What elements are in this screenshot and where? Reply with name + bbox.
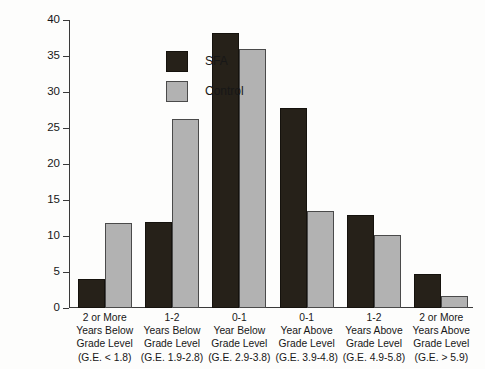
x-axis-label-4: 1-2Years AboveGrade Level(G.E. 4.9-5.8) bbox=[335, 311, 413, 364]
x-axis-label-line: (G.E. 4.9-5.8) bbox=[335, 351, 413, 364]
y-tick-label: 5 bbox=[54, 264, 60, 279]
x-axis-label-line: Years Below bbox=[133, 324, 211, 337]
y-tick-label: 0 bbox=[54, 300, 60, 315]
x-axis-label-line: Grade Level bbox=[268, 337, 346, 350]
x-axis-label-line: Year Below bbox=[200, 324, 278, 337]
x-axis-label-line: Years Above bbox=[335, 324, 413, 337]
x-axis-label-line: 0-1 bbox=[200, 311, 278, 324]
bar-chart-figure: Percent of Students 0510152025303540 SFA… bbox=[0, 0, 485, 369]
x-axis-label-line: Year Above bbox=[268, 324, 346, 337]
legend-label-sfa: SFA bbox=[205, 54, 228, 68]
legend-swatch-control bbox=[166, 81, 188, 102]
x-axis-label-3: 0-1Year AboveGrade Level(G.E. 3.9-4.8) bbox=[268, 311, 346, 364]
bar-control-3 bbox=[307, 211, 334, 308]
y-tick-label: 25 bbox=[47, 120, 60, 135]
x-axis-label-1: 1-2Years BelowGrade Level(G.E. 1.9-2.8) bbox=[133, 311, 211, 364]
bar-group bbox=[280, 20, 334, 308]
x-axis-label-line: 1-2 bbox=[133, 311, 211, 324]
x-axis-label-line: Grade Level bbox=[200, 337, 278, 350]
x-axis-label-5: 2 or MoreYears AboveGrade Level(G.E. > 5… bbox=[402, 311, 480, 364]
x-axis-label-line: Grade Level bbox=[66, 337, 144, 350]
x-axis-label-line: 2 or More bbox=[66, 311, 144, 324]
x-axis-label-line: (G.E. < 1.8) bbox=[66, 351, 144, 364]
plot-area: 0510152025303540 SFA Control bbox=[69, 20, 473, 308]
bar-sfa-3 bbox=[280, 108, 307, 308]
x-axis-label-line: (G.E. 2.9-3.8) bbox=[200, 351, 278, 364]
bar-control-5 bbox=[441, 296, 468, 308]
x-axis-label-line: Years Above bbox=[402, 324, 480, 337]
bar-sfa-1 bbox=[145, 222, 172, 308]
y-tick-mark bbox=[63, 308, 69, 309]
bar-group bbox=[347, 20, 401, 308]
bar-group bbox=[78, 20, 132, 308]
y-tick-label: 30 bbox=[47, 84, 60, 99]
y-tick-label: 15 bbox=[47, 192, 60, 207]
x-axis-label-line: (G.E. 1.9-2.8) bbox=[133, 351, 211, 364]
x-axis-label-line: 2 or More bbox=[402, 311, 480, 324]
x-axis-label-line: (G.E. 3.9-4.8) bbox=[268, 351, 346, 364]
legend-swatch-sfa bbox=[166, 51, 188, 72]
x-axis-label-line: Grade Level bbox=[402, 337, 480, 350]
bar-sfa-0 bbox=[78, 279, 105, 308]
bar-control-0 bbox=[105, 223, 132, 308]
x-axis-label-line: 1-2 bbox=[335, 311, 413, 324]
x-axis-category-labels: 2 or MoreYears BelowGrade Level(G.E. < 1… bbox=[69, 311, 473, 367]
x-axis-label-line: Grade Level bbox=[335, 337, 413, 350]
legend-item-sfa: SFA bbox=[166, 46, 286, 76]
y-tick-label: 20 bbox=[47, 156, 60, 171]
chart-legend: SFA Control bbox=[166, 46, 286, 106]
legend-item-control: Control bbox=[166, 76, 286, 106]
x-axis-label-0: 2 or MoreYears BelowGrade Level(G.E. < 1… bbox=[66, 311, 144, 364]
bar-sfa-5 bbox=[414, 274, 441, 308]
x-axis-label-2: 0-1Year BelowGrade Level(G.E. 2.9-3.8) bbox=[200, 311, 278, 364]
x-axis-label-line: 0-1 bbox=[268, 311, 346, 324]
y-tick-label: 10 bbox=[47, 228, 60, 243]
x-axis-label-line: (G.E. > 5.9) bbox=[402, 351, 480, 364]
x-axis-label-line: Grade Level bbox=[133, 337, 211, 350]
y-tick-label: 35 bbox=[47, 48, 60, 63]
bar-control-4 bbox=[374, 235, 401, 308]
legend-label-control: Control bbox=[205, 84, 244, 98]
bar-group bbox=[414, 20, 468, 308]
x-axis-label-line: Years Below bbox=[66, 324, 144, 337]
bar-sfa-4 bbox=[347, 215, 374, 308]
y-tick-label: 40 bbox=[47, 12, 60, 27]
bar-control-1 bbox=[172, 119, 199, 308]
